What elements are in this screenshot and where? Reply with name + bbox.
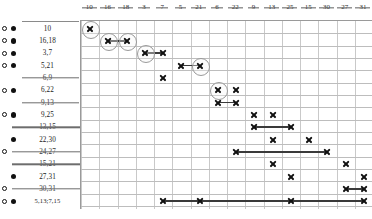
x-tick-label: 10 xyxy=(85,2,94,13)
grid-line-horizontal xyxy=(81,83,372,84)
row-label: 22,30 xyxy=(0,134,80,145)
x-tick-label: 7 xyxy=(159,2,165,13)
x-tick-label: 31 xyxy=(358,2,367,13)
x-tick-label: 9 xyxy=(251,2,257,13)
row-label-text: 6,9 xyxy=(18,74,80,82)
data-point-x-marker xyxy=(269,136,277,144)
grid-line-horizontal xyxy=(81,169,372,170)
row-label: 6,9 xyxy=(0,72,80,83)
filled-circle-icon xyxy=(9,109,18,120)
marker-placeholder xyxy=(9,72,18,83)
marker-placeholder xyxy=(9,97,18,108)
data-point-x-marker xyxy=(232,99,240,107)
row-label-text: 13,15 xyxy=(18,123,80,131)
grid-line-horizontal xyxy=(81,58,372,59)
row-label-column: 1016,183,75,216,96,229,139,2513,1522,302… xyxy=(0,0,80,219)
data-point-x-marker xyxy=(232,86,240,94)
filled-circle-icon xyxy=(9,134,18,145)
interval-bar xyxy=(236,151,327,153)
row-label-text: 10 xyxy=(18,25,80,33)
data-point-x-marker xyxy=(342,160,350,168)
filled-circle-icon xyxy=(9,48,18,59)
grid-line-horizontal xyxy=(81,194,372,195)
row-label-text: 5,21 xyxy=(18,62,80,70)
open-circle-icon xyxy=(0,60,9,71)
x-tick-label: 15 xyxy=(304,2,313,13)
row-label: 5,13;7,15 xyxy=(0,196,80,207)
row-label: 9,13 xyxy=(0,97,80,108)
grid-line-horizontal xyxy=(81,107,372,108)
data-point-x-marker xyxy=(196,62,204,70)
row-label-text: 22,30 xyxy=(18,136,80,144)
grid-line-horizontal xyxy=(81,144,372,145)
x-axis-tick-labels: 101618375216229132515302731 xyxy=(80,0,372,21)
x-tick-31: 31 xyxy=(350,2,372,13)
label-column-rule xyxy=(22,21,79,22)
row-label: 10 xyxy=(0,23,80,34)
data-point-x-marker xyxy=(305,136,313,144)
row-label: 15,21 xyxy=(0,159,80,170)
open-circle-icon xyxy=(0,23,9,34)
marker-placeholder xyxy=(0,171,9,182)
open-circle-icon xyxy=(0,85,9,96)
x-tick-label: 13 xyxy=(267,2,276,13)
marker-placeholder xyxy=(0,134,9,145)
filled-circle-icon xyxy=(9,196,18,207)
row-label: 24,27 xyxy=(0,146,80,157)
data-point-x-marker xyxy=(177,62,185,70)
x-tick-label: 25 xyxy=(285,2,294,13)
open-circle-icon xyxy=(0,48,9,59)
marker-placeholder xyxy=(0,159,9,170)
x-tick-label: 3 xyxy=(141,2,147,13)
open-circle-icon xyxy=(0,183,9,194)
marker-placeholder xyxy=(0,97,9,108)
data-point-x-marker xyxy=(342,185,350,193)
x-tick-label: 6 xyxy=(214,2,220,13)
open-circle-icon xyxy=(0,196,9,207)
x-tick-label: 22 xyxy=(231,2,240,13)
data-point-x-marker xyxy=(323,148,331,156)
row-label-text: 30,31 xyxy=(18,185,80,193)
data-point-x-marker xyxy=(196,197,204,205)
row-label-text: 16,18 xyxy=(18,37,80,45)
x-tick-label: 30 xyxy=(322,2,331,13)
filled-circle-icon xyxy=(9,85,18,96)
x-tick-label: 27 xyxy=(340,2,349,13)
data-point-x-marker xyxy=(159,74,167,82)
data-point-x-marker xyxy=(86,25,94,33)
row-label: 13,15 xyxy=(0,122,80,133)
row-label-text: 6,22 xyxy=(18,86,80,94)
row-label-text: 9,25 xyxy=(18,111,80,119)
data-point-x-marker xyxy=(287,197,295,205)
x-tick-label: 16 xyxy=(103,2,112,13)
interval-schedule-chart: 101618375216229132515302731 1016,183,75,… xyxy=(0,0,372,219)
data-point-x-marker xyxy=(360,173,368,181)
filled-circle-icon xyxy=(9,23,18,34)
row-label: 9,25 xyxy=(0,109,80,120)
row-label-text: 5,13;7,15 xyxy=(18,197,80,205)
row-label-text: 9,13 xyxy=(18,99,80,107)
row-label: 30,31 xyxy=(0,183,80,194)
row-label-text: 3,7 xyxy=(18,49,80,57)
data-point-x-marker xyxy=(287,123,295,131)
grid-line-horizontal xyxy=(81,132,372,133)
data-point-x-marker xyxy=(360,185,368,193)
marker-placeholder xyxy=(0,72,9,83)
row-label-text: 24,27 xyxy=(18,148,80,156)
data-point-x-marker xyxy=(123,37,131,45)
data-point-x-marker xyxy=(250,123,258,131)
x-tick-label: 21 xyxy=(194,2,203,13)
row-label: 3,7 xyxy=(0,48,80,59)
filled-circle-icon xyxy=(9,171,18,182)
open-circle-icon xyxy=(0,146,9,157)
data-point-x-marker xyxy=(214,86,222,94)
grid-line-horizontal xyxy=(81,70,372,71)
data-point-x-marker xyxy=(287,173,295,181)
row-label: 6,22 xyxy=(0,85,80,96)
row-label-text: 27,31 xyxy=(18,173,80,181)
data-point-x-marker xyxy=(214,99,222,107)
filled-circle-icon xyxy=(9,35,18,46)
data-point-x-marker xyxy=(250,111,258,119)
plot-area xyxy=(80,21,372,209)
grid-line-horizontal xyxy=(81,206,372,207)
